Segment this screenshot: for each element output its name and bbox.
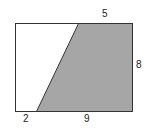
- label-bottom-left: 2: [23, 114, 29, 124]
- label-right: 8: [136, 60, 142, 70]
- label-top: 5: [102, 9, 108, 19]
- label-bottom-right: 9: [84, 114, 90, 124]
- diagram-canvas: [0, 0, 148, 129]
